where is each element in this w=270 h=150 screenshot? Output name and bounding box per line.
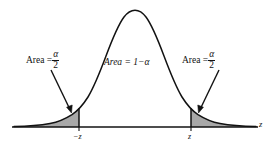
normal-distribution-figure: Area =α2 Area = 1−α Area =α2 −z z z — [0, 0, 270, 150]
right-tail-denominator: 2 — [208, 61, 215, 71]
right-leader-arrow — [198, 70, 219, 113]
right-tail-area-prefix: Area = — [182, 56, 208, 66]
right-tail-area-annotation: Area =α2 — [182, 50, 215, 71]
tick-label-negative-z: −z — [73, 133, 82, 141]
right-tail-numerator: α — [208, 50, 215, 61]
left-leader-arrow — [51, 70, 72, 113]
left-tail-area-prefix: Area = — [26, 56, 52, 66]
left-tail-alpha-over-two: α2 — [52, 50, 59, 71]
left-tail-area-annotation: Area =α2 — [26, 50, 59, 71]
center-area-annotation: Area = 1−α — [104, 58, 149, 68]
axis-variable-label: z — [259, 120, 262, 129]
left-tail-denominator: 2 — [52, 61, 59, 71]
left-tail-numerator: α — [52, 50, 59, 61]
distribution-plot-svg — [0, 0, 270, 150]
right-tail-alpha-over-two: α2 — [208, 50, 215, 71]
tick-label-positive-z: z — [188, 133, 191, 141]
